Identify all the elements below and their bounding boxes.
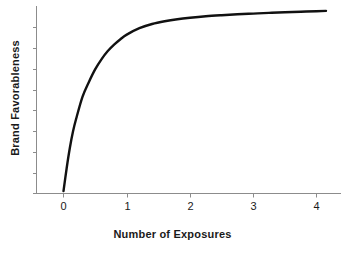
y-axis-title: Brand Favorableness	[9, 40, 21, 156]
x-tick-label-4: 4	[304, 200, 330, 212]
x-axis-title: Number of Exposures	[0, 228, 345, 240]
y-axis-title-container: Brand Favorableness	[0, 0, 30, 196]
x-tick-label-3: 3	[241, 200, 267, 212]
y-axis-ticks	[33, 28, 37, 174]
chart-plot-area	[0, 0, 345, 253]
x-tick-label-0: 0	[51, 200, 77, 212]
chart-figure: 0 1 2 3 4 Number of Exposures Brand Favo…	[0, 0, 345, 253]
x-tick-label-1: 1	[115, 200, 141, 212]
data-series-curve	[64, 11, 326, 191]
x-axis-ticks	[64, 194, 317, 198]
x-tick-label-2: 2	[178, 200, 204, 212]
